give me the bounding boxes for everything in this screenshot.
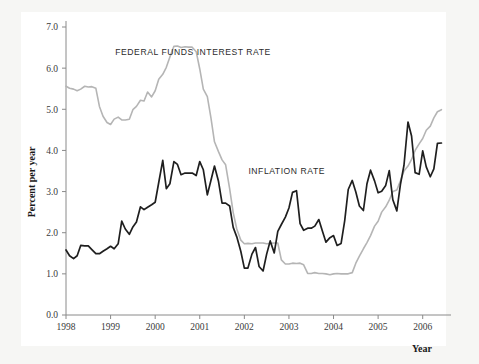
y-axis-title: Percent per year: [26, 146, 37, 217]
series-group: [66, 46, 441, 275]
y-tick-label: 0.0: [46, 310, 58, 320]
x-tick-label: 1999: [101, 322, 120, 332]
x-axis-title: Year: [412, 343, 433, 354]
line-chart: 0.01.02.03.04.05.06.07.01998199920002001…: [0, 0, 479, 364]
series-annotation-label: FEDERAL FUNDS INTEREST RATE: [115, 47, 271, 57]
x-tick-label: 1998: [57, 322, 76, 332]
x-tick-label: 2003: [279, 322, 298, 332]
x-tick-label: 2000: [146, 322, 165, 332]
y-tick-label: 5.0: [46, 105, 58, 115]
figure-canvas: 0.01.02.03.04.05.06.07.01998199920002001…: [0, 0, 479, 364]
x-tick-label: 2006: [413, 322, 432, 332]
series-line: [66, 122, 441, 271]
tick-labels-group: 0.01.02.03.04.05.06.07.01998199920002001…: [46, 22, 432, 332]
x-tick-label: 2002: [235, 322, 254, 332]
y-tick-label: 3.0: [46, 187, 58, 197]
y-tick-label: 6.0: [46, 64, 58, 74]
y-tick-label: 1.0: [46, 269, 58, 279]
x-tick-label: 2001: [190, 322, 209, 332]
y-tick-label: 7.0: [46, 22, 58, 32]
y-tick-label: 4.0: [46, 146, 58, 156]
x-tick-label: 2005: [369, 322, 388, 332]
y-tick-label: 2.0: [46, 228, 58, 238]
series-annotation-label: INFLATION RATE: [248, 166, 325, 176]
x-tick-label: 2004: [324, 322, 343, 332]
series-line: [66, 46, 441, 275]
